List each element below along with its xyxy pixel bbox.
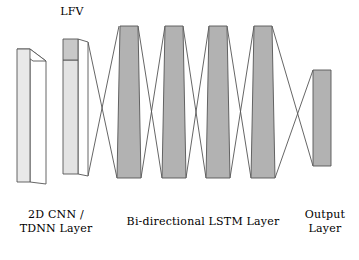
- output-block-face: [313, 70, 331, 166]
- connection-line: [141, 26, 165, 178]
- lstm-block-3: [206, 26, 230, 178]
- architecture-diagram: LFV 2D CNN / TDNN Layer Bi-directional L…: [0, 0, 359, 260]
- connection-line: [88, 26, 119, 176]
- connection-line: [138, 26, 162, 178]
- output-block: [313, 70, 331, 166]
- cnn-layer-label: 2D CNN / TDNN Layer: [4, 208, 108, 236]
- output-layer-label-line2: Layer: [296, 222, 354, 236]
- lstm-block-group: [117, 26, 275, 178]
- cnn-layer-label-line2: TDNN Layer: [4, 222, 108, 236]
- lfv-label-text: LFV: [44, 5, 100, 19]
- lfv-label: LFV: [44, 5, 100, 19]
- connection-line: [227, 26, 251, 178]
- connection-line: [183, 26, 206, 178]
- lstm-layer-label: Bi-directional LSTM Layer: [108, 215, 298, 229]
- output-layer-label: Output Layer: [296, 208, 354, 236]
- output-layer-label-line1: Output: [296, 208, 354, 222]
- lfv-block: [63, 39, 88, 176]
- lfv-block-body-face: [63, 60, 78, 174]
- connection-line: [230, 26, 254, 178]
- cnn-block-front-face: [17, 49, 30, 182]
- lstm-block-1: [117, 26, 141, 178]
- connection-line: [186, 26, 209, 178]
- lstm-block-4: [251, 26, 275, 178]
- lfv-block-side-face: [78, 39, 88, 176]
- lfv-block-cap-face: [63, 39, 78, 60]
- cnn-layer-label-line1: 2D CNN /: [4, 208, 108, 222]
- connection-line: [88, 42, 117, 178]
- cnn-block-side-face: [30, 49, 46, 184]
- lstm-block-2: [162, 26, 186, 178]
- lstm-layer-label-text: Bi-directional LSTM Layer: [108, 215, 298, 229]
- cnn-block: [17, 49, 46, 184]
- connection-line: [275, 70, 313, 178]
- connection-line: [272, 26, 313, 166]
